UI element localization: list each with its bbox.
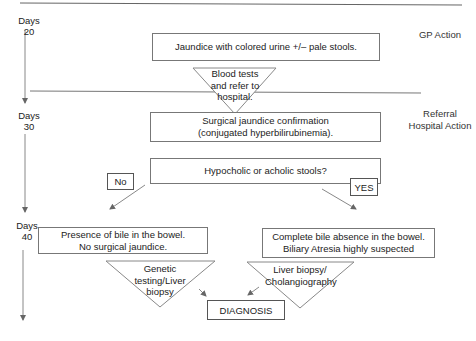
phase-label-referral: Referral Hospital Action — [405, 108, 475, 132]
yes-label: YES — [350, 178, 378, 196]
days-value: 30 — [14, 121, 44, 132]
days-label: Days — [14, 110, 44, 121]
genetic-testing-text: Genetic testing/Liver biopsy — [130, 263, 190, 298]
days-value: 20 — [14, 26, 44, 37]
bile-absent-box: Complete bile absence in the bowel. Bili… — [262, 228, 435, 258]
diagnosis-box: DIAGNOSIS — [207, 300, 285, 320]
no-label: No — [107, 173, 134, 190]
bile-present-box: Presence of bile in the bowel. No surgic… — [38, 227, 208, 254]
blood-tests-text: Blood tests and refer to hospital. — [205, 68, 265, 103]
confirmation-box: Surgical jaundice confirmation (conjugat… — [150, 112, 381, 142]
phase-label-gp: GP Action — [410, 29, 470, 41]
top-rule — [20, 3, 462, 5]
stools-question-box: Hypocholic or acholic stools? — [150, 158, 381, 184]
timeline-marker-day-20: Days 20 — [14, 15, 44, 37]
jaundice-box: Jaundice with colored urine +/– pale sto… — [152, 33, 380, 61]
genetic-to-diagnosis-arrow — [199, 289, 206, 296]
liver-to-diagnosis-arrow — [248, 287, 259, 295]
timeline-marker-day-30: Days 30 — [14, 110, 44, 132]
days-label: Days — [14, 15, 44, 26]
liver-biopsy-text: Liver biopsy/ Cholangiography — [265, 264, 335, 287]
